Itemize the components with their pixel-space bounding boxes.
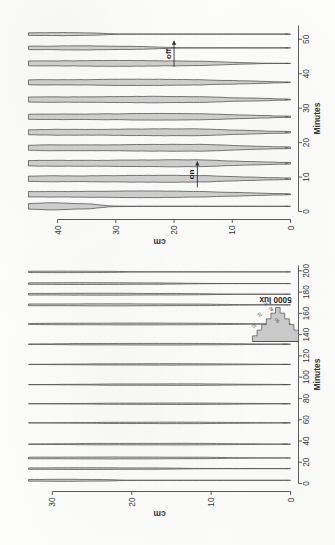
violin-shape [28, 60, 290, 66]
violin-shape [28, 175, 290, 182]
axis-tick-label: 0 [285, 225, 295, 230]
inset-tick-label: 10 [250, 322, 257, 329]
violin-shape [28, 128, 290, 135]
figure-stage: 020406080100120140160180200Minutes010203… [0, 0, 335, 545]
violin-shape [28, 113, 290, 120]
axis-tick-label: 0 [285, 497, 295, 502]
violin-shape [28, 190, 290, 197]
panel-annotation-label: on [187, 169, 196, 179]
violin-shape [28, 383, 290, 385]
violin-shape [28, 282, 290, 284]
violin-shape [28, 402, 290, 404]
axis-tick-label: 20 [301, 457, 311, 467]
axis-tick-label: 200 [301, 263, 311, 277]
time-axis-title: Minutes [311, 102, 321, 134]
lower-panel-plot: 01020304050Minutes010203040cmonoff [6, 19, 326, 245]
violin-shape [28, 467, 290, 469]
violin-shape [28, 159, 290, 166]
axis-tick-label: 60 [301, 414, 311, 424]
panel-annotation-label: off [164, 48, 173, 59]
axis-tick-label: 10 [206, 497, 216, 507]
violin-shape [28, 363, 290, 365]
inset-histogram-plot: 10203040505000 lux [246, 291, 308, 359]
axis-tick-label: 40 [301, 435, 311, 445]
inset-histogram-bars [252, 307, 298, 341]
annotation-arrow-head-icon [171, 40, 175, 44]
axis-tick-label: 30 [47, 497, 57, 507]
axis-tick-label: 100 [301, 369, 311, 383]
time-axis-title: Minutes [311, 358, 321, 390]
axis-tick-label: 30 [301, 103, 311, 113]
violin-shape [28, 45, 290, 49]
violin-shape [28, 32, 290, 35]
axis-tick-label: 50 [301, 34, 311, 44]
violin-shape [28, 96, 290, 103]
axis-tick-label: 30 [110, 225, 120, 235]
lower-violin-panel: 01020304050Minutes010203040cmonoff [6, 19, 326, 245]
violin-shape [28, 144, 290, 151]
scanned-figure-page: 020406080100120140160180200Minutes010203… [0, 0, 335, 545]
axis-tick-label: 20 [169, 225, 179, 235]
axis-tick-label: 20 [301, 137, 311, 147]
cm-axis-title: cm [152, 508, 165, 518]
axis-tick-label: 40 [52, 225, 62, 235]
violin-shape [28, 422, 290, 424]
axis-tick-label: 40 [301, 68, 311, 78]
axis-tick-label: 0 [301, 480, 311, 485]
violin-shape [28, 271, 290, 273]
axis-tick-label: 80 [301, 393, 311, 403]
axis-tick-label: 0 [301, 208, 311, 213]
inset-caption-label: 5000 lux [258, 294, 291, 303]
violin-shape [28, 456, 290, 458]
violin-shape [28, 202, 290, 209]
violin-shape [28, 479, 290, 481]
inset-histogram: 10203040505000 lux [246, 291, 308, 359]
axis-tick-label: 10 [301, 172, 311, 182]
axis-tick-label: 10 [227, 225, 237, 235]
violin-shape [28, 79, 290, 85]
axis-tick-label: 20 [126, 497, 136, 507]
violin-shape [28, 443, 290, 445]
inset-tick-label: 20 [256, 310, 263, 317]
cm-axis-title: cm [152, 236, 165, 246]
